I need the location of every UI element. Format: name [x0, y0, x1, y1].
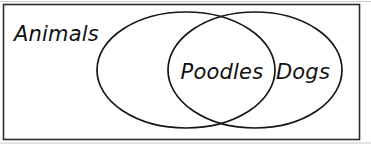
- venn-diagram-figure: Animals Poodles Dogs: [0, 0, 371, 145]
- region-label-dogs: Dogs: [276, 60, 330, 84]
- venn-diagram-canvas: Animals Poodles Dogs: [0, 0, 371, 145]
- region-label-intersection-poodles: Poodles: [181, 60, 264, 84]
- universe-label: Animals: [12, 22, 99, 46]
